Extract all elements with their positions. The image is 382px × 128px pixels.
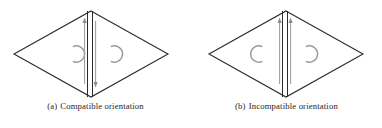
- caption-tag-a: (a): [47, 101, 57, 111]
- caption-tag-b: (b): [235, 101, 246, 111]
- subfigure-b: (b)Incompatible orientation: [191, 0, 382, 128]
- right-arrow-b: [289, 18, 293, 85]
- diagram-a: [0, 0, 191, 100]
- caption-a: (a)Compatible orientation: [47, 101, 144, 112]
- left-arc-b: [251, 46, 263, 62]
- rhombus-outline-b: [209, 11, 363, 97]
- diagram-b: [191, 0, 382, 100]
- caption-text-b: Incompatible orientation: [249, 101, 338, 111]
- right-arrow-a: [94, 21, 98, 88]
- left-arc-a: [73, 46, 85, 62]
- right-arc-b: [306, 46, 318, 62]
- caption-text-a: Compatible orientation: [60, 101, 144, 111]
- figure-row: (a)Compatible orientation: [0, 0, 382, 128]
- caption-b: (b)Incompatible orientation: [235, 101, 338, 112]
- left-arrow-b: [278, 18, 282, 85]
- subfigure-a: (a)Compatible orientation: [0, 0, 191, 128]
- right-arc-a: [111, 46, 123, 62]
- rhombus-outline-a: [14, 11, 168, 97]
